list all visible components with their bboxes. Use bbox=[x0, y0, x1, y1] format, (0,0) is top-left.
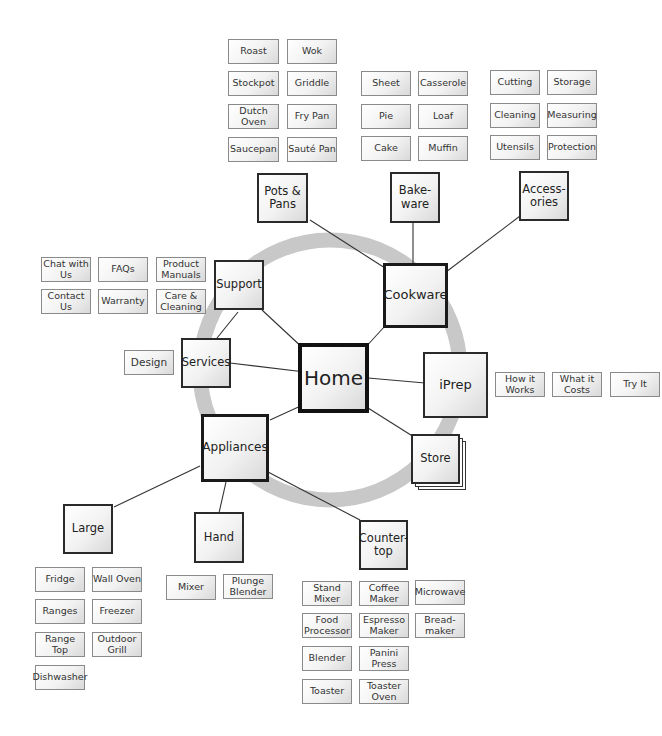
node-label: Store bbox=[420, 452, 450, 465]
leaf-utensils[interactable]: Utensils bbox=[490, 135, 540, 160]
node-bakeware[interactable]: Bake-ware bbox=[390, 172, 440, 223]
leaf-care-cleaning[interactable]: Care & Cleaning bbox=[156, 289, 206, 314]
node-label: Support bbox=[216, 278, 261, 291]
node-services[interactable]: Services bbox=[181, 338, 231, 388]
leaf-label: Design bbox=[131, 356, 167, 368]
leaf-roast[interactable]: Roast bbox=[228, 39, 279, 64]
leaf-label: Wok bbox=[302, 46, 322, 57]
leaf-range-top[interactable]: Range Top bbox=[35, 632, 85, 657]
node-pots-pans[interactable]: Pots & Pans bbox=[257, 173, 308, 223]
node-store[interactable]: Store bbox=[411, 434, 460, 484]
leaf-saute-pan[interactable]: Sauté Pan bbox=[287, 137, 337, 162]
leaf-label: Loaf bbox=[433, 111, 453, 122]
leaf-product-manuals[interactable]: Product Manuals bbox=[156, 257, 206, 282]
leaf-plunge-blender[interactable]: Plunge Blender bbox=[223, 574, 273, 599]
leaf-label: Dishwasher bbox=[32, 672, 87, 683]
leaf-outdoor-grill[interactable]: Outdoor Grill bbox=[92, 632, 142, 657]
leaf-label: Try It bbox=[623, 379, 646, 390]
leaf-label: FAQs bbox=[111, 264, 134, 275]
leaf-label: Freezer bbox=[100, 606, 135, 617]
node-home[interactable]: Home bbox=[298, 343, 369, 413]
node-label: Appliances bbox=[202, 441, 267, 455]
node-label: Bake-ware bbox=[392, 184, 438, 210]
leaf-pie[interactable]: Pie bbox=[361, 104, 411, 129]
leaf-label: What it Costs bbox=[553, 374, 601, 396]
leaf-mixer[interactable]: Mixer bbox=[166, 575, 216, 600]
leaf-panini-press[interactable]: Panini Press bbox=[359, 646, 409, 671]
leaf-cutting[interactable]: Cutting bbox=[490, 70, 540, 95]
leaf-sheet[interactable]: Sheet bbox=[361, 71, 411, 96]
node-accessories[interactable]: Access-ories bbox=[519, 171, 569, 221]
leaf-label: Muffin bbox=[428, 143, 457, 154]
leaf-fry-pan[interactable]: Fry Pan bbox=[287, 104, 337, 129]
leaf-label: Plunge Blender bbox=[224, 576, 272, 598]
node-cookware[interactable]: Cookware bbox=[383, 263, 448, 328]
leaf-chat-with-us[interactable]: Chat with Us bbox=[41, 257, 91, 282]
leaf-label: Fry Pan bbox=[295, 111, 329, 122]
leaf-label: Toaster bbox=[310, 686, 344, 697]
leaf-label: Roast bbox=[240, 46, 266, 57]
leaf-label: Cutting bbox=[498, 77, 533, 88]
leaf-measuring[interactable]: Measuring bbox=[547, 103, 597, 128]
leaf-label: Fridge bbox=[45, 574, 74, 585]
leaf-muffin[interactable]: Muffin bbox=[418, 136, 468, 161]
leaf-label: Measuring bbox=[547, 110, 596, 121]
leaf-label: Griddle bbox=[295, 78, 329, 89]
leaf-label: Range Top bbox=[36, 634, 84, 656]
leaf-protection[interactable]: Protection bbox=[547, 135, 597, 160]
leaf-wok[interactable]: Wok bbox=[287, 39, 337, 64]
leaf-label: Panini Press bbox=[360, 648, 408, 670]
leaf-food-processor[interactable]: Food Processor bbox=[302, 613, 352, 638]
leaf-label: Contact Us bbox=[42, 291, 90, 313]
node-countertop[interactable]: Counter-top bbox=[359, 520, 408, 570]
node-appliances[interactable]: Appliances bbox=[201, 414, 269, 482]
leaf-saucepan[interactable]: Saucepan bbox=[228, 137, 279, 162]
leaf-blender[interactable]: Blender bbox=[302, 646, 352, 671]
leaf-griddle[interactable]: Griddle bbox=[287, 71, 337, 96]
leaf-label: Microwave bbox=[415, 587, 466, 598]
node-hand[interactable]: Hand bbox=[194, 512, 244, 563]
node-label: Hand bbox=[204, 531, 234, 544]
leaf-toaster[interactable]: Toaster bbox=[302, 679, 352, 704]
leaf-loaf[interactable]: Loaf bbox=[418, 104, 468, 129]
leaf-toaster-oven[interactable]: Toaster Oven bbox=[359, 679, 409, 704]
leaf-cleaning[interactable]: Cleaning bbox=[490, 103, 540, 128]
leaf-stand-mixer[interactable]: Stand Mixer bbox=[302, 581, 352, 606]
leaf-label: Storage bbox=[553, 77, 590, 88]
node-label: Home bbox=[304, 367, 363, 390]
leaf-wall-oven[interactable]: Wall Oven bbox=[92, 567, 142, 592]
leaf-design[interactable]: Design bbox=[124, 350, 174, 375]
leaf-label: Warranty bbox=[101, 296, 144, 307]
leaf-breadmaker[interactable]: Bread-maker bbox=[415, 613, 465, 638]
leaf-how-it-works[interactable]: How it Works bbox=[495, 372, 545, 397]
leaf-freezer[interactable]: Freezer bbox=[92, 599, 142, 624]
leaf-label: Casserole bbox=[420, 78, 466, 89]
leaf-ranges[interactable]: Ranges bbox=[35, 599, 85, 624]
node-iprep[interactable]: iPrep bbox=[423, 352, 488, 418]
leaf-label: Outdoor Grill bbox=[93, 634, 141, 656]
node-support[interactable]: Support bbox=[214, 260, 264, 310]
node-label: Pots & Pans bbox=[259, 185, 306, 211]
leaf-label: Espresso Maker bbox=[360, 615, 408, 637]
leaf-dutch-oven[interactable]: Dutch Oven bbox=[228, 104, 279, 129]
leaf-stockpot[interactable]: Stockpot bbox=[228, 71, 279, 96]
leaf-microwave[interactable]: Microwave bbox=[415, 580, 465, 605]
leaf-label: Toaster Oven bbox=[360, 681, 408, 703]
leaf-try-it[interactable]: Try It bbox=[610, 372, 660, 397]
leaf-faqs[interactable]: FAQs bbox=[98, 257, 148, 282]
node-label: Counter-top bbox=[359, 532, 408, 558]
leaf-coffee-maker[interactable]: Coffee Maker bbox=[359, 581, 409, 606]
leaf-casserole[interactable]: Casserole bbox=[418, 71, 468, 96]
leaf-contact-us[interactable]: Contact Us bbox=[41, 289, 91, 314]
leaf-espresso-maker[interactable]: Espresso Maker bbox=[359, 613, 409, 638]
leaf-cake[interactable]: Cake bbox=[361, 136, 411, 161]
leaf-what-it-costs[interactable]: What it Costs bbox=[552, 372, 602, 397]
node-large[interactable]: Large bbox=[63, 504, 113, 554]
leaf-label: Product Manuals bbox=[157, 259, 205, 281]
leaf-label: Food Processor bbox=[303, 615, 351, 637]
leaf-fridge[interactable]: Fridge bbox=[35, 567, 85, 592]
node-label: Access-ories bbox=[521, 183, 567, 209]
leaf-warranty[interactable]: Warranty bbox=[98, 289, 148, 314]
leaf-dishwasher[interactable]: Dishwasher bbox=[35, 665, 85, 690]
leaf-storage[interactable]: Storage bbox=[547, 70, 597, 95]
